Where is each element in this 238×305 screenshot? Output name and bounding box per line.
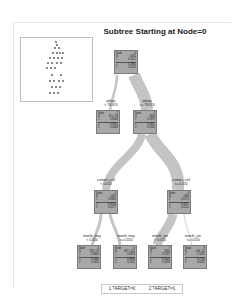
split-label: pdays>= 78.070 (132, 99, 162, 107)
legend-item-target-1: 2 TARGET=1 (149, 285, 176, 293)
tree-node-3[interactable]: Node3 N1602 10.8083 10.8083 20.0277 (94, 190, 118, 214)
tree-node-0[interactable]: Node0 N4561 10.5012 10.4882 20.5024 (114, 50, 138, 74)
split-label: month_may< 0.010 (77, 234, 107, 242)
legend: 1 TARGET=0 2 TARGET=1 (101, 284, 183, 294)
tree-node-8[interactable]: Node8 N146 / 15 20.5481 10.2700 20.6481 (183, 245, 207, 269)
tree-node-2[interactable]: Node2 N3640 10.4371 10.5651 20.4349 (133, 110, 157, 134)
tree-node-1[interactable]: Node1 N921 / 93 20.8448 10.9552 20.0448 (96, 110, 120, 134)
split-label: contact_cell>= 0.010 (166, 178, 196, 186)
split-label: month_may>= 0.010 (111, 234, 141, 242)
split-label: month_jun>= 0.010 (178, 234, 208, 242)
legend-item-target-0: 1 TARGET=0 (109, 285, 136, 293)
split-label: pdays< 78.070 (96, 99, 126, 107)
tree-node-4[interactable]: Node4 N1638 20.6712 10.4697 20.6512 (167, 190, 191, 214)
tree-node-7[interactable]: Node7 N2691 10.5587 10.5040 20.4418 (148, 245, 172, 269)
tree-node-5[interactable]: Node5 N826 / 28 10.9600 10.9600 20.0400 (77, 245, 101, 269)
split-label: month_jun< 0.010 (145, 234, 175, 242)
tree-node-6[interactable]: Node6 N621 / 161 10.8839 10.8839 20.1161 (113, 245, 137, 269)
split-label: contact_cell< 0.010 (91, 178, 121, 186)
